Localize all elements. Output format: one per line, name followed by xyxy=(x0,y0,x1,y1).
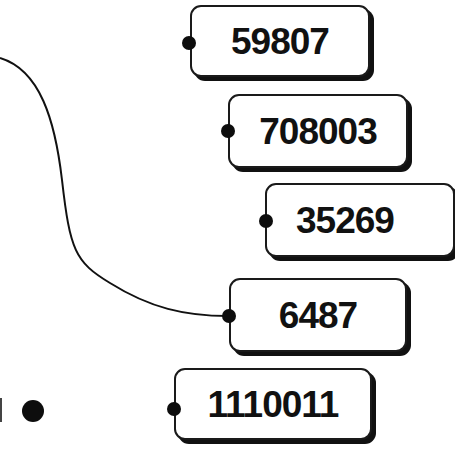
tag-label: 35269 xyxy=(296,202,394,239)
tag-label: 708003 xyxy=(259,113,376,150)
tag-label: 59807 xyxy=(231,23,329,60)
tag-6487: 6487 xyxy=(229,278,407,352)
tag-59807: 59807 xyxy=(190,5,370,77)
loose-dot-icon xyxy=(22,400,44,422)
tag-hole-icon xyxy=(222,309,236,323)
tag-1110011: 1110011 xyxy=(174,368,372,440)
tag-hole-icon xyxy=(259,214,273,228)
tag-708003: 708003 xyxy=(228,94,408,168)
tag-hole-icon xyxy=(167,402,181,416)
tag-35269: 35269 xyxy=(265,183,455,257)
tag-label: 1110011 xyxy=(208,386,339,423)
edge-mark xyxy=(0,398,2,422)
tag-hole-icon xyxy=(182,36,196,50)
tag-label: 6487 xyxy=(279,297,357,334)
tag-hole-icon xyxy=(221,124,235,138)
